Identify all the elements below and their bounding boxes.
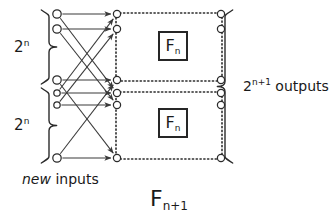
mid-node-m2	[113, 76, 120, 83]
edge-i4-m1	[60, 34, 113, 102]
label-upper-group-size: 2n	[14, 40, 30, 55]
output-node-o4	[217, 101, 224, 108]
label-bottom-title: Fn+1	[150, 188, 188, 210]
input-node-i3	[54, 90, 60, 96]
output-node-o5	[217, 154, 224, 161]
block-fn-top: Fn	[158, 31, 188, 61]
output-node-o3	[217, 89, 224, 96]
input-node-i4	[54, 102, 60, 108]
edge-layer	[60, 14, 114, 158]
input-node-i1	[53, 25, 61, 33]
mid-node-m3	[113, 89, 120, 96]
mid-node-m4	[113, 101, 120, 108]
block-fn-top-label: Fn	[166, 38, 181, 54]
node-layer	[53, 10, 225, 162]
mid-node-m5	[113, 154, 120, 161]
brace-upper-2n	[41, 10, 56, 84]
input-node-i2	[53, 76, 61, 84]
output-node-o1	[217, 25, 224, 32]
output-node-o0	[217, 10, 224, 17]
brace-lower-2n	[41, 88, 56, 163]
input-node-i0	[53, 10, 61, 18]
output-node-o2	[217, 76, 224, 83]
block-fn-bottom: Fn	[158, 108, 188, 138]
label-new-inputs: new inputs	[22, 172, 99, 186]
label-lower-group-size: 2n	[14, 118, 30, 133]
block-fn-bottom-label: Fn	[166, 115, 181, 131]
mid-node-m0	[113, 10, 120, 17]
input-node-i5	[53, 154, 61, 162]
label-outputs: 2n+1 outputs	[243, 79, 329, 93]
brace-layer	[41, 10, 232, 163]
label-new-inputs-rest: inputs	[51, 171, 99, 187]
label-new-inputs-emphasis: new	[22, 171, 51, 187]
mid-node-m1	[113, 25, 120, 32]
figure-canvas: Fn Fn 2n 2n 2n+1 outputs new inputs Fn+1	[0, 0, 335, 223]
